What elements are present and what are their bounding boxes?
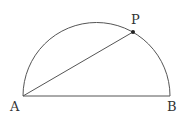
point-P-dot xyxy=(131,30,135,34)
label-A: A xyxy=(9,99,20,114)
semicircle-arc xyxy=(23,22,170,96)
label-P: P xyxy=(131,12,140,27)
label-B: B xyxy=(167,99,177,114)
chord-AP xyxy=(23,32,133,96)
semicircle-diagram: A B P xyxy=(0,0,186,116)
